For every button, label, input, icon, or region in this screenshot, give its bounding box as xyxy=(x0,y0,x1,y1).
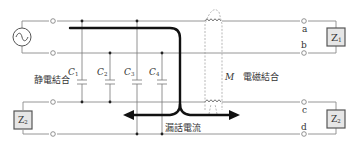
capacitor-c1 xyxy=(77,21,87,102)
mutual-inductance-dashed xyxy=(205,10,222,114)
capacitor-c4 xyxy=(157,53,167,134)
junction-dot xyxy=(161,52,164,55)
terminal-label-c: c xyxy=(302,105,307,115)
terminal-label-a: a xyxy=(302,24,308,34)
leakage-arrow-right-icon xyxy=(229,110,240,120)
capacitor-c2 xyxy=(105,53,115,102)
junction-dot xyxy=(109,101,112,104)
terminal-label-b: b xyxy=(301,40,307,50)
impedance-z1: Z1 xyxy=(327,28,345,46)
junction-dot xyxy=(81,101,84,104)
leakage-current-label: 漏話電流 xyxy=(165,122,201,133)
ac-source-icon xyxy=(13,28,31,46)
impedance-z2-left: Z2 xyxy=(14,111,32,129)
junction-dot xyxy=(136,20,139,23)
junction-dot xyxy=(81,20,84,23)
junction-dot xyxy=(161,133,164,136)
leakage-arrow-left-icon xyxy=(123,110,134,120)
terminal-label-d: d xyxy=(301,122,307,132)
crosstalk-diagram: Z1 a b Z2 Z2 c d xyxy=(0,0,359,147)
junction-dot xyxy=(109,52,112,55)
impedance-z2-right: Z2 xyxy=(327,110,345,128)
capacitor-label-c4: C4 xyxy=(149,67,160,77)
inductor-bottom-icon xyxy=(205,100,221,102)
inductor-top-icon xyxy=(205,19,221,21)
terminal-circles-top xyxy=(51,19,307,56)
junction-dot xyxy=(136,133,139,136)
capacitor-label-c3: C3 xyxy=(124,67,135,77)
mutual-inductance-label: M xyxy=(224,72,235,82)
electromagnetic-coupling-label: 電磁結合 xyxy=(243,71,279,82)
capacitor-label-c2: C2 xyxy=(97,67,107,77)
capacitive-coupling-label: 静電結合 xyxy=(34,74,70,85)
